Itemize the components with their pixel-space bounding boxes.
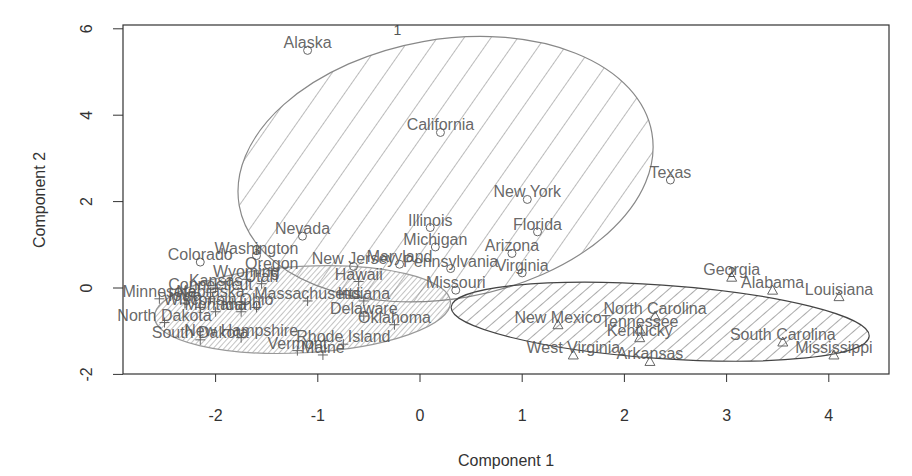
point-label: Nevada [275,220,330,237]
point-label: Illinois [408,212,452,229]
x-axis-label: Component 1 [458,452,554,469]
point-label: California [407,116,475,133]
y-axis-label: Component 2 [31,152,48,248]
point-label: Florida [513,216,562,233]
y-tick-label: 6 [78,24,95,33]
cluster-id-label: 3 [253,242,261,258]
point-label: Missouri [426,274,486,291]
x-tick-label: 2 [620,407,629,424]
point-label: Michigan [403,231,467,248]
point-label: Oklahoma [358,309,431,326]
cluster-plot: AlaskaCaliforniaTexasNew YorkFloridaNeva… [0,0,912,476]
point-label: Kentucky [607,322,673,339]
point-label: Alabama [741,274,804,291]
point-label: New York [494,183,563,200]
point-label: Louisiana [805,281,874,298]
point-label: Pennsylvania [403,253,498,270]
y-tick-label: -2 [78,367,95,381]
point-label: Mississippi [795,339,872,356]
point-label: Virginia [496,257,549,274]
cluster-id-label: 2 [728,264,736,280]
x-tick-label: 4 [824,407,833,424]
point-label: Arkansas [617,345,684,362]
point-label: Ohio [240,291,274,308]
x-tick-label: -1 [311,407,325,424]
y-axis: -20246 [78,24,123,381]
x-tick-label: -2 [208,407,222,424]
point-label: Hawaii [335,266,383,283]
point-label: Minnesota [122,283,196,300]
point-label: New Mexico [514,309,601,326]
x-tick-label: 3 [722,407,731,424]
point-label: West Virginia [526,339,620,356]
cluster-id-label: 1 [394,22,402,38]
point-label: Maine [301,339,345,356]
y-tick-label: 4 [78,111,95,120]
x-tick-label: 1 [518,407,527,424]
y-tick-label: 0 [78,283,95,292]
point-label: Texas [649,164,691,181]
x-tick-label: 0 [416,407,425,424]
point-label: Alaska [284,34,332,51]
x-axis: -2-101234 [116,374,889,424]
y-tick-label: 2 [78,197,95,206]
